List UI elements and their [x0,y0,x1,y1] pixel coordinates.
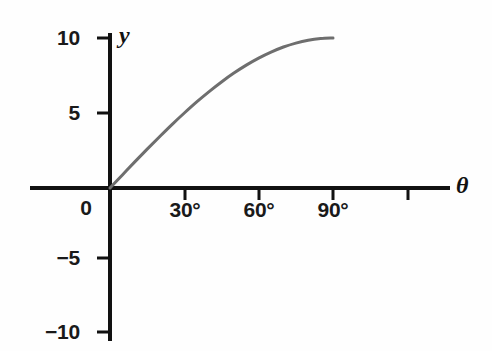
y-tick-label-10: 10 [32,26,80,50]
chart-plot-area [0,0,492,351]
origin-label-0: 0 [72,196,100,220]
y-tick-label-neg5: −5 [22,246,80,270]
y-tick-label-5: 5 [32,101,80,125]
x-tick-label-90: 90° [295,198,371,222]
x-tick-label-60: 60° [221,198,297,222]
y-tick-label-neg10: −10 [12,320,80,344]
chart-figure: 10 5 −5 −10 0 30° 60° 90° y θ [0,0,492,351]
x-axis-label-theta: θ [456,172,468,199]
y-axis-label: y [119,22,130,49]
data-curve-sine [110,38,333,188]
x-tick-label-30: 30° [147,198,223,222]
